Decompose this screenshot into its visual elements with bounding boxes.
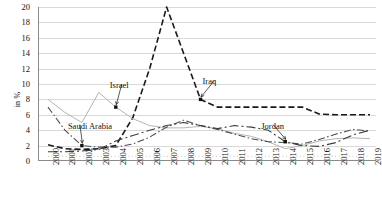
y-axis-tick-label: 2 — [8, 142, 30, 151]
y-axis-tick-label: 4 — [8, 126, 30, 135]
chart-figure: in % 02468101214161820 20002001200220032… — [0, 0, 382, 199]
x-axis-tick-label: 2001 — [68, 131, 77, 165]
x-axis-tick-label: 2004 — [119, 131, 128, 165]
y-axis-tick-label: 8 — [8, 95, 30, 104]
x-axis-tick-label: 2012 — [255, 131, 264, 165]
x-axis-tick-label: 2007 — [170, 131, 179, 165]
annotation-marker — [199, 98, 202, 101]
y-axis-tick-label: 10 — [8, 80, 30, 89]
x-axis-tick-label: 2013 — [272, 131, 281, 165]
x-axis-tick-label: 2008 — [187, 131, 196, 165]
y-axis-tick-label: 6 — [8, 111, 30, 120]
x-axis-tick-label: 2018 — [357, 131, 366, 165]
y-axis-tick-label: 0 — [8, 157, 30, 166]
x-axis-tick-label: 2015 — [306, 131, 315, 165]
x-axis-tick-label: 2003 — [102, 131, 111, 165]
x-axis-tick-label: 2016 — [323, 131, 332, 165]
figure-caption — [6, 190, 376, 199]
annotation-marker — [284, 140, 287, 143]
series-label-saudi-arabia: Saudi Arabia — [68, 122, 112, 131]
series-label-jordan: Jordan — [261, 122, 284, 131]
x-axis-tick-label: 2014 — [289, 131, 298, 165]
x-axis-tick-label: 2017 — [340, 131, 349, 165]
x-axis-tick-label: 2006 — [153, 131, 162, 165]
x-axis-tick-label: 2010 — [221, 131, 230, 165]
x-axis-tick-label: 2002 — [85, 131, 94, 165]
y-axis-tick-label: 18 — [8, 18, 30, 27]
x-axis-tick-label: 2019 — [374, 131, 382, 165]
y-axis-tick-label: 12 — [8, 65, 30, 74]
series-label-iraq: Iraq — [203, 77, 217, 86]
x-axis-tick-label: 2000 — [52, 131, 61, 165]
x-axis-tick-label: 2009 — [204, 131, 213, 165]
annotation-marker — [80, 144, 83, 147]
y-axis-tick-label: 20 — [8, 3, 30, 12]
annotation-marker — [114, 105, 117, 108]
x-axis-tick-label: 2005 — [136, 131, 145, 165]
y-axis-tick-label: 16 — [8, 34, 30, 43]
series-label-israel: Israel — [110, 81, 129, 90]
y-axis-tick-label: 14 — [8, 49, 30, 58]
x-axis-tick-label: 2011 — [238, 131, 247, 165]
